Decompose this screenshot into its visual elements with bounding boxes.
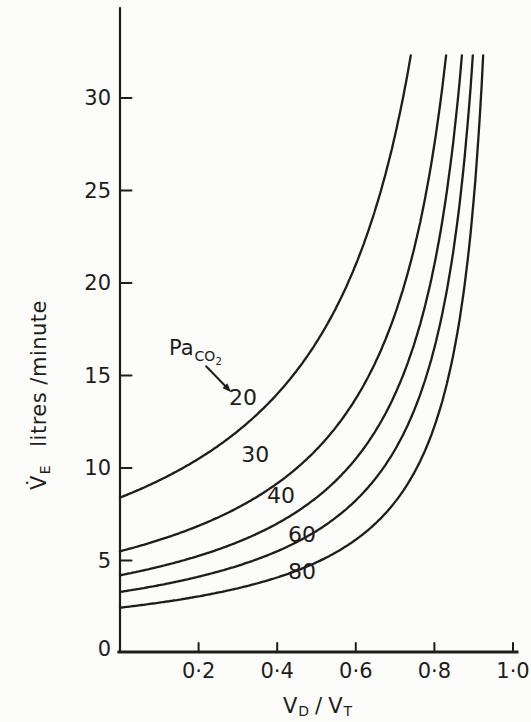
x-tick-label-0.2: 0·2	[182, 659, 215, 683]
curve-paco2-20	[120, 56, 411, 498]
y-tick-label-15: 15	[84, 364, 111, 388]
vt-letter: V	[328, 694, 343, 718]
curve-label-40: 40	[267, 483, 295, 508]
y-axis-label: V̇Elitres /minute	[27, 225, 53, 565]
x-tick-label-0.8: 0·8	[418, 659, 451, 683]
y-tick-label-5: 5	[98, 549, 111, 573]
x-tick-label-0.4: 0·4	[260, 659, 293, 683]
y-tick-label-10: 10	[84, 456, 111, 480]
y-tick-label-30: 30	[84, 86, 111, 110]
plot-area: 5101520253000·20·40·60·81·02030406080	[0, 0, 531, 722]
paco2-arrow	[206, 366, 227, 388]
x-tick-label-1: 1·0	[496, 659, 529, 683]
paco2-subsub: 2	[215, 356, 221, 367]
curve-label-30: 30	[241, 442, 269, 467]
paco2-main: Pa	[169, 336, 194, 360]
ve-letter: V̇	[27, 475, 51, 490]
vd-letter: V	[283, 694, 298, 718]
paco2-annotation-label: PaCO2	[169, 336, 222, 360]
y-tick-label-20: 20	[84, 271, 111, 295]
ve-subscript: E	[37, 465, 53, 474]
ratio-slash: /	[315, 694, 323, 718]
x-tick-label-0.6: 0·6	[339, 659, 372, 683]
paco2-sub: CO	[195, 348, 216, 364]
x-axis-label: VD/VT	[233, 694, 403, 718]
origin-label: 0	[98, 637, 111, 661]
curve-label-60: 60	[288, 522, 316, 547]
vt-subscript: T	[344, 703, 354, 719]
vd-subscript: D	[298, 703, 310, 719]
curve-label-20: 20	[229, 385, 257, 410]
ve-symbol: V̇E	[27, 465, 51, 490]
y-axis-units: litres /minute	[27, 300, 51, 447]
y-tick-label-25: 25	[84, 179, 111, 203]
curve-label-80: 80	[288, 559, 316, 584]
